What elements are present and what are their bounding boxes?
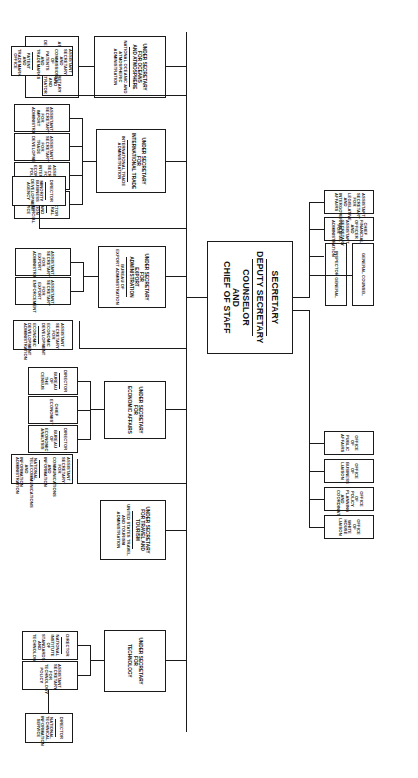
connector (292, 310, 310, 311)
label: INTERNATIONAL TRADE (130, 132, 135, 190)
label: THE CENSUS (39, 370, 48, 392)
connector (77, 645, 91, 646)
box-under-secretary-travel-tourism[interactable]: UNDER SECRETARY FOR TRAVEL AND TOURISM U… (100, 500, 166, 560)
connector (77, 483, 187, 484)
divider (39, 460, 40, 477)
box-office-business-liaison[interactable]: OFFICE OF BUSINESS LIAISON (324, 459, 374, 483)
label: ASSISTANT SECRETARY (61, 457, 70, 481)
connector (70, 291, 84, 292)
connector (42, 76, 43, 96)
box-assistant-secretary-trade-development[interactable]: ASSISTANT SECRETARY FOR TRADE DEVELOPMEN… (14, 133, 70, 161)
label: AND INFORMATION (42, 457, 51, 481)
label: UNDER SECRETARY (142, 39, 147, 95)
connector-tech-bus (90, 645, 91, 675)
box-assistant-secretary-legislative[interactable]: ASSISTANT SECRETARY FOR LEGISLATIVE AND … (324, 190, 374, 214)
box-office-white-house-liaison[interactable]: OFFICE OF WHITE HOUSE LIAISON (324, 515, 374, 539)
box-under-secretary-export-administration[interactable]: UNDER SECRETARY FOR EXPORT ADMINISTRATIO… (98, 246, 166, 308)
box-general-counsel[interactable]: GENERAL COUNSEL (352, 243, 374, 306)
box-director-nist[interactable]: DIRECTOR NATIONAL INSTITUTE OF STANDARDS… (22, 631, 78, 660)
label: DIRECTOR (62, 428, 67, 450)
connector (309, 229, 324, 230)
label: NATIONAL TECHNICAL (44, 716, 53, 740)
label: OFFICE OF (351, 518, 360, 536)
label: ASSISTANT SECRETARY (44, 107, 53, 129)
connector (82, 161, 96, 162)
connector (90, 660, 104, 661)
box-assistant-secretary-export-administration[interactable]: ASSISTANT SECRETARY FOR EXPORT ADMINISTR… (15, 248, 71, 276)
label: ATMOSPHERIC ADMINISTRATION (113, 39, 122, 95)
label: GENERAL COUNSEL (361, 246, 366, 303)
divider (38, 326, 39, 343)
box-chief-economist[interactable]: CHIEF ECONOMIST (28, 396, 78, 424)
label: INFORMATION SERVICE (35, 716, 44, 740)
box-assistant-secretary-export-enforcement[interactable]: ASSISTANT SECRETARY FOR EXPORT ENFORCEME… (15, 277, 71, 305)
branch-stub-oceans (165, 66, 187, 67)
box-office-policy-planning[interactable]: OFFICE OF POLICY PLANNING AND COORDINATI… (324, 487, 374, 511)
connector (292, 297, 310, 298)
divider (45, 182, 46, 199)
spine-stub (186, 297, 207, 298)
label: UNDER SECRETARY (138, 633, 143, 689)
connector (69, 204, 83, 205)
box-assistant-secretary-technology-policy[interactable]: ASSISTANT SECRETARY FOR TECHNOLOGY POLIC… (22, 661, 78, 690)
label: EXPORT ADMINISTRATION (129, 249, 139, 305)
box-ntia[interactable] (99, 454, 101, 483)
counselor-label-1: COUNSELOR (240, 244, 250, 351)
counselor-label-2: AND (231, 244, 241, 351)
connector-ntis (48, 690, 49, 714)
box-ntia-agency[interactable]: ASSISTANT SECRETARY FOR COMMUNICATIONS A… (11, 454, 73, 484)
org-chart-canvas: SECRETARY DEPUTY SECRETARY COUNSELOR AND… (0, 0, 418, 778)
connector-staff-bus-bottom (309, 310, 310, 527)
label: ASSISTANT SECRETARY (45, 280, 54, 302)
box-communications-information[interactable] (76, 455, 78, 459)
label: ASSISTANT SECRETARY (52, 664, 61, 687)
box-director-bureau-census[interactable]: DIRECTOR BUREAU OF THE CENSUS (28, 367, 78, 395)
box-assistant-secretary-import-administration[interactable]: ASSISTANT SECRETARY FOR IMPORT ADMINISTR… (14, 104, 70, 132)
label: FOR (132, 633, 137, 689)
label: BUREAU OF (48, 370, 57, 392)
box-assistant-secretary-economic-development[interactable]: ASSISTANT SECRETARY FOR ECONOMIC DEVELOP… (13, 320, 73, 350)
divider (55, 719, 56, 736)
box-director-ntis[interactable]: DIRECTOR NATIONAL TECHNICAL INFORMATION … (25, 713, 73, 743)
box-under-secretary-oceans[interactable]: UNDER SECRETARY FOR OCEANS AND ATMOSPHER… (94, 36, 166, 98)
connector (309, 275, 352, 276)
label: OFFICE (12, 49, 17, 73)
label: MINORITY BUSINESS (34, 179, 43, 203)
secretary-label: SECRETARY (269, 244, 279, 351)
label: PATENT AND (21, 49, 30, 73)
connector (79, 321, 80, 349)
box-under-secretary-economic-affairs[interactable]: UNDER SECRETARY FOR ECONOMIC AFFAIRS (104, 381, 166, 439)
connector (77, 439, 91, 440)
connector (69, 118, 83, 119)
connector (309, 256, 324, 257)
connector (70, 262, 84, 263)
label: WHITE HOUSE LIAISON (338, 518, 352, 536)
label: ADMINISTRATION (22, 323, 27, 347)
box-director-bureau-economic-analysis[interactable]: DIRECTOR BUREAU OF ECONOMIC ANALYSIS (28, 425, 78, 453)
label: ADMINISTRATION (116, 132, 121, 190)
label: ASSISTANT SECRETARY AND (58, 49, 72, 73)
divider (132, 511, 133, 550)
box-under-secretary-international-trade[interactable]: UNDER SECRETARY FOR INTERNATIONAL TRADE … (96, 129, 166, 193)
divider (126, 257, 127, 297)
label: ASSISTANT SECRETARY FOR (351, 193, 365, 211)
label: CHIEF FINANCIAL OFFICER AND (349, 220, 367, 238)
label: ECONOMIC DEVELOPMENT (27, 323, 36, 347)
box-office-public-affairs[interactable]: OFFICE OF PUBLIC AFFAIRS (324, 431, 374, 455)
box-patent-trademark-office[interactable]: ASSISTANT SECRETARY AND COMMISSIONER OF … (11, 46, 73, 76)
connector (309, 443, 324, 444)
box-under-secretary-technology[interactable]: UNDER SECRETARY FOR TECHNOLOGY (104, 630, 166, 692)
label: ADMINISTRATION (331, 220, 336, 238)
connector (83, 276, 98, 277)
box-director-minority-business-development-agency[interactable]: DIRECTOR MINORITY BUSINESS DEVELOPMENT A… (12, 176, 66, 206)
connector (309, 499, 324, 500)
connector-staff-bus-top (309, 202, 310, 298)
divider (266, 259, 267, 336)
label: NATIONAL TELECOMMUNICATIONS (28, 457, 37, 481)
label: UNDER SECRETARY FOR (136, 132, 146, 190)
label: COMMISSIONER OF PATENTS (45, 49, 59, 73)
label: ASSISTANT SECRETARY (44, 136, 53, 158)
box-secretary[interactable]: SECRETARY DEPUTY SECRETARY COUNSELOR AND… (207, 241, 293, 354)
branch-stub-travel-tourism (165, 530, 187, 531)
label: LEGISLATIVE AND (342, 193, 351, 211)
